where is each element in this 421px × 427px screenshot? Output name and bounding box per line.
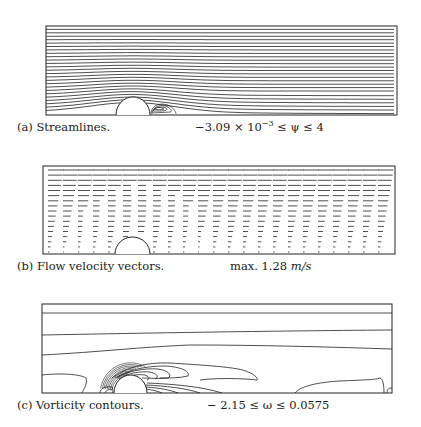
vorticity-contours-plot [0,0,421,427]
caption-vorticity-contours: (c) Vorticity contours. [17,398,144,412]
range-vorticity-contours: − 2.15 ≤ ω ≤ 0.0575 [207,398,329,412]
figure-vorticity-contours: (c) Vorticity contours. − 2.15 ≤ ω ≤ 0.0… [0,0,421,427]
